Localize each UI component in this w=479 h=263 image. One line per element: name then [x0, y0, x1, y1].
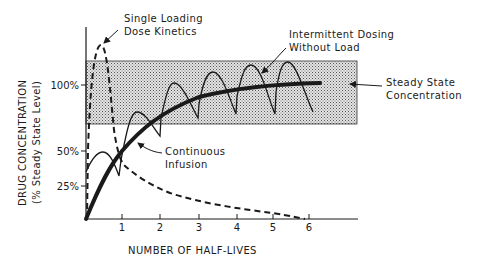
annotation-continuous-infusion-2: Infusion: [165, 159, 208, 170]
annotation-intermittent-2: Without Load: [289, 42, 360, 53]
annotation-continuous-infusion-1: Continuous: [165, 146, 225, 157]
x-tick-4: 4: [234, 222, 240, 233]
annotation-steady-state-1: Steady State: [386, 77, 455, 88]
annotation-steady-state-2: Concentration: [386, 90, 462, 101]
x-tick-1: 1: [119, 222, 125, 233]
annotation-arrow-infusion: [138, 143, 162, 153]
annotation-arrow-loading: [104, 30, 118, 43]
y-tick-50: 50%: [57, 146, 79, 157]
annotation-single-loading-2: Dose Kinetics: [124, 26, 197, 37]
x-tick-3: 3: [196, 222, 202, 233]
x-tick-6: 6: [306, 222, 312, 233]
y-tick-100: 100%: [50, 80, 79, 91]
pharmacokinetics-chart: 100% 50% 25% 1 2 3 4 5 6 NUMBER OF HALF-…: [0, 0, 479, 263]
y-tick-25: 25%: [57, 181, 79, 192]
y-axis-sublabel: (% Steady State Level): [31, 81, 42, 204]
x-tick-5: 5: [270, 222, 276, 233]
y-ticks: 100% 50% 25%: [50, 80, 86, 192]
annotation-intermittent-1: Intermittent Dosing: [289, 29, 394, 40]
x-axis-label: NUMBER OF HALF-LIVES: [128, 245, 257, 256]
x-tick-2: 2: [157, 222, 163, 233]
annotation-single-loading-1: Single Loading: [124, 13, 203, 24]
y-axis-label: DRUG CONCENTRATION: [17, 80, 28, 206]
x-ticks: 1 2 3 4 5 6: [119, 214, 312, 233]
